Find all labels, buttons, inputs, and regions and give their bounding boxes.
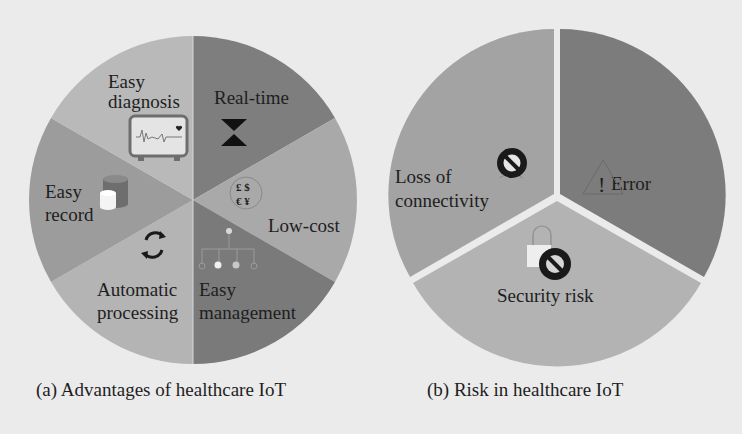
label-low-cost: Low-cost: [268, 215, 340, 236]
svg-text:€ ¥: € ¥: [236, 195, 250, 207]
svg-text:!: !: [598, 172, 605, 197]
advantages-pie: Easy diagnosis Real-time Low-cost Easy m…: [29, 36, 357, 364]
label-real-time: Real-time: [214, 87, 289, 108]
no-signal-prohibited-icon: [497, 148, 527, 178]
svg-text:£ $: £ $: [236, 181, 250, 193]
label-security-risk: Security risk: [497, 285, 594, 306]
risk-pie: Loss of connectivity Error Security risk…: [388, 29, 725, 366]
caption-advantages: (a) Advantages of healthcare IoT: [36, 379, 286, 401]
figure: Easy diagnosis Real-time Low-cost Easy m…: [0, 0, 742, 434]
monitor-heartbeat-icon: [130, 116, 187, 161]
caption-risk: (b) Risk in healthcare IoT: [427, 379, 623, 401]
database-icon: [100, 175, 128, 210]
